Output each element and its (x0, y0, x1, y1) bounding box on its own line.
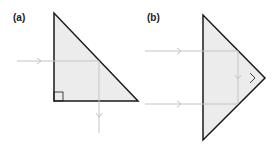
prism-b (203, 15, 265, 140)
diagram-svg (0, 0, 280, 147)
panel-a (17, 13, 138, 133)
prism-a (54, 13, 138, 101)
prism-diagram: (a) (b) (0, 0, 280, 147)
panel-b (145, 15, 265, 140)
